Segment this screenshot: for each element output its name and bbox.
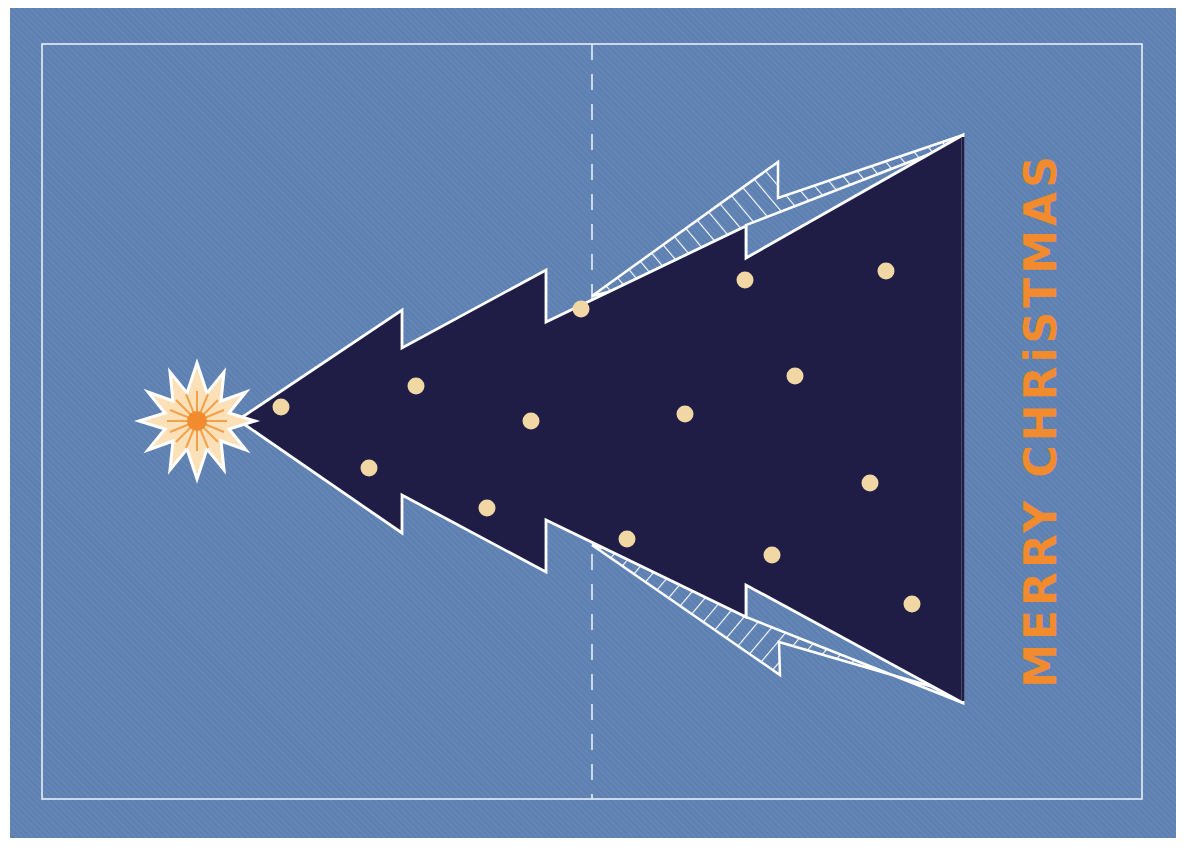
christmas-tree-icon — [238, 135, 963, 703]
ornament-icon — [479, 500, 496, 517]
greeting-text: MERRY CHRiSTMAS — [1015, 152, 1066, 688]
ornament-icon — [273, 399, 290, 416]
ornament-icon — [619, 531, 636, 548]
ornament-icon — [878, 263, 895, 280]
ornament-icon — [904, 596, 921, 613]
ornament-icon — [573, 301, 590, 318]
ornament-icon — [737, 272, 754, 289]
ornament-icon — [764, 547, 781, 564]
ornament-icon — [862, 475, 879, 492]
ornament-icon — [408, 378, 425, 395]
ornament-icon — [523, 413, 540, 430]
ornament-icon — [361, 460, 378, 477]
ornament-icon — [677, 406, 694, 423]
card-artwork — [0, 0, 1184, 848]
star-icon — [139, 363, 255, 479]
ornament-icon — [787, 368, 804, 385]
